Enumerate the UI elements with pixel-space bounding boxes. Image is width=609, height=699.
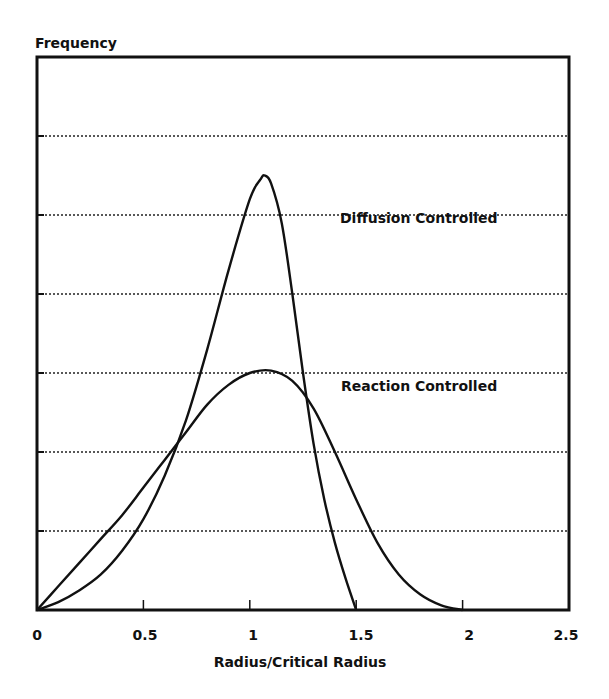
x-tick-label: 0 [32,627,42,643]
plot-frame [37,57,569,610]
x-tick-label: 0.5 [133,627,158,643]
x-axis-label: Radius/Critical Radius [214,654,387,670]
x-tick-label: 2 [464,627,474,643]
x-tick-label: 2.5 [554,627,579,643]
gridlines [37,136,569,531]
annotation-diffusion-controlled: Diffusion Controlled [340,210,498,226]
x-axis-tick-labels: 0 0.5 1 1.5 2 2.5 [32,627,578,643]
annotation-reaction-controlled: Reaction Controlled [341,378,497,394]
chart-canvas: Frequency Diffusion Controlled Reaction … [0,0,609,699]
curve-diffusion-controlled [37,175,356,610]
x-tick-label: 1.5 [349,627,374,643]
y-axis-label: Frequency [35,35,117,51]
x-tick-label: 1 [248,627,258,643]
